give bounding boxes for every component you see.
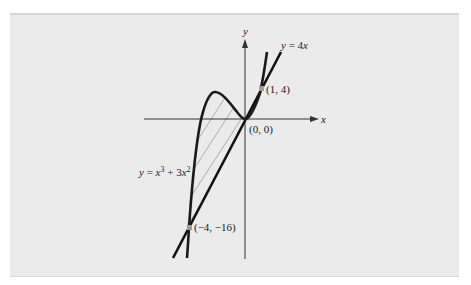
x-axis-label: x <box>320 113 326 125</box>
point-label-1-4: (1, 4) <box>266 83 290 96</box>
point-label-m4-m16: (−4, −16) <box>194 221 236 234</box>
marker-m4-m16 <box>187 225 192 230</box>
x-axis <box>144 116 319 122</box>
line-label: y = 4x <box>280 39 308 51</box>
plot: y x y = 4x (1, 4) (0, 0) (−4, −16) y = x… <box>0 0 471 285</box>
x-axis-arrow-icon <box>310 116 319 122</box>
y-axis <box>242 39 248 259</box>
curve-label: y = x3 + 3x2 <box>138 165 191 178</box>
y-axis-label: y <box>242 25 248 37</box>
y-axis-arrow-icon <box>242 39 248 48</box>
point-label-0-0: (0, 0) <box>249 123 273 136</box>
shaded-region <box>90 90 290 260</box>
marker-1-4 <box>259 86 264 91</box>
